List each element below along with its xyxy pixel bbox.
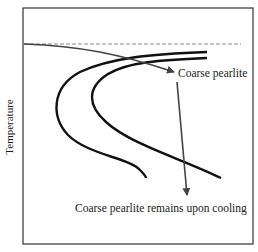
y-axis-label: Temperature xyxy=(3,99,15,155)
ttt-diagram: Coarse pearlite Coarse pearlite remains … xyxy=(0,0,258,252)
cooling-path-arrow xyxy=(24,44,174,72)
quench-arrow xyxy=(177,82,187,195)
coarse-pearlite-label: Coarse pearlite xyxy=(178,67,247,80)
cooling-result-label: Coarse pearlite remains upon cooling xyxy=(75,202,247,215)
